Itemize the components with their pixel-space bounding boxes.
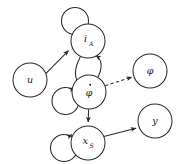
node-phi[interactable]: φ xyxy=(133,54,167,88)
node-x-s-subscript: S xyxy=(90,142,94,149)
node-i-a-label: i xyxy=(84,33,87,44)
edge-u-to-i-a xyxy=(46,51,69,74)
phi-dot-accent-icon xyxy=(89,84,91,86)
node-u[interactable]: u xyxy=(13,63,47,97)
diagram-canvas: u i A φ φ x S y xyxy=(0,0,183,164)
node-y-label: y xyxy=(151,115,158,126)
node-i-a-circle[interactable] xyxy=(71,24,105,58)
node-i-a-subscript: A xyxy=(88,40,94,47)
node-u-label: u xyxy=(27,74,33,85)
node-phi-dot-label: φ xyxy=(86,87,93,98)
edge-phi-dot-to-phi xyxy=(105,77,132,85)
graph-svg: u i A φ φ x S y xyxy=(0,0,183,164)
node-x-s[interactable]: x S xyxy=(71,126,105,160)
node-y[interactable]: y xyxy=(138,104,172,138)
node-phi-dot[interactable]: φ xyxy=(72,75,106,109)
edge-x-s-to-y xyxy=(104,128,136,136)
node-i-a[interactable]: i A xyxy=(71,24,105,58)
node-phi-label: φ xyxy=(147,65,154,76)
edge-phi-dot-to-i-a xyxy=(96,55,101,78)
node-x-s-label: x xyxy=(83,135,89,146)
